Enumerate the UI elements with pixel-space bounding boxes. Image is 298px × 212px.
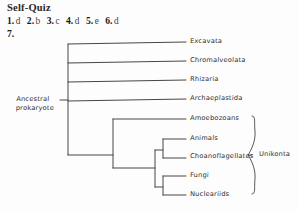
tip-label-fungi: Fungi <box>190 171 209 179</box>
branch-rhizaria <box>68 80 186 82</box>
root-label-line-2: prokaryote <box>16 104 55 113</box>
tip-label-amoebozoans: Amoebozoans <box>190 114 240 122</box>
clade-label-unikonta: Unikonta <box>259 150 291 158</box>
branch-excavata <box>68 42 186 44</box>
page-root: Self-Quiz 1.d2.b3.c4.d5.e6.d 7. <box>0 0 298 212</box>
phylogenetic-tree-diagram: Ancestral prokaryote Excavata Chromalveo… <box>0 0 298 212</box>
tip-label-chromalveolata: Chromalveolata <box>190 56 246 64</box>
root-label: Ancestral prokaryote <box>16 95 55 112</box>
tip-label-rhizaria: Rhizaria <box>190 75 219 83</box>
branch-archaeplastida <box>68 99 186 101</box>
tip-label-animals: Animals <box>190 134 218 142</box>
branch-chromalveolata <box>68 61 186 63</box>
tip-label-nucleariids: Nucleariids <box>190 190 230 198</box>
tip-label-choanoflagellates: Choanoflagellates <box>190 152 254 160</box>
root-label-line-1: Ancestral <box>16 95 55 104</box>
tip-label-excavata: Excavata <box>190 37 223 45</box>
tip-label-archaeplastida: Archaeplastida <box>190 94 243 102</box>
